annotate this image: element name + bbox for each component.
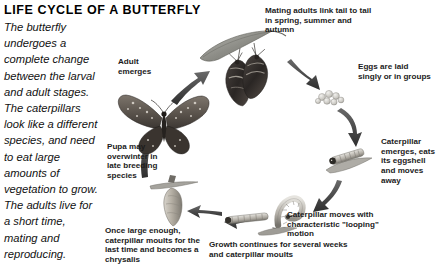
page-title: LIFE CYCLE OF A BUTTERFLY: [4, 3, 201, 17]
intro-paragraph: The butterfly undergoes a complete chang…: [4, 19, 100, 262]
caption-pupa-overwinter: Pupa may overwinter in late breeding spe…: [107, 142, 171, 181]
chrysalis-hanging-from-twig-figure: [150, 175, 198, 226]
diagram-canvas: LIFE CYCLE OF A BUTTERFLY The butterfly …: [0, 0, 440, 267]
caption-mating-adults: Mating adults link tail to tail in sprin…: [265, 6, 375, 35]
caption-looping-motion: Caterpillar moves with characteristic "l…: [287, 210, 397, 239]
caption-adult-emerges: Adult emerges: [118, 57, 168, 76]
arrow-eggs-to-caterpillar: [337, 108, 362, 147]
caption-caterpillar-emerges: Caterpillar emerges, eats its eggshell a…: [381, 137, 439, 186]
caption-becomes-chrysalis: Once large enough, caterpillar moults fo…: [105, 226, 211, 265]
grown-caterpillar-figure: [225, 213, 269, 224]
caption-eggs-laid: Eggs are laid singly or in groups: [358, 62, 434, 81]
caption-growth-continues: Growth continues for several weeks and c…: [209, 240, 359, 259]
arrow-growth-to-chrysalis: [187, 205, 222, 218]
butterfly-eggs-cluster-figure: [315, 90, 344, 105]
arrow-mating-to-eggs: [287, 59, 320, 90]
young-caterpillar-on-leaf-figure: [326, 148, 372, 173]
arrow-caterpillar-to-looping: [313, 180, 342, 212]
mating-butterflies-on-leaf-figure: [200, 31, 286, 107]
